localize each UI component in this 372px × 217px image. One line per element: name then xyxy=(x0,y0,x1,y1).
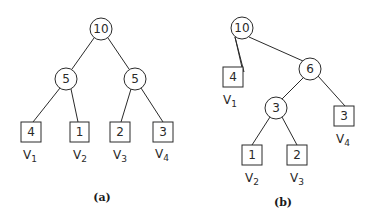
edge xyxy=(249,37,303,61)
root-node: 10 xyxy=(231,17,253,39)
edge xyxy=(33,88,60,122)
leaf-node: 1 V2 xyxy=(70,122,89,164)
leaf-label: V1 xyxy=(223,93,237,109)
edge xyxy=(71,89,78,122)
leaf-label: V3 xyxy=(290,171,304,187)
node-value: 4 xyxy=(27,125,35,139)
node-value: 3 xyxy=(272,101,280,115)
node-value: 1 xyxy=(248,148,256,162)
leaf-label: V3 xyxy=(113,148,127,164)
edge xyxy=(141,88,163,122)
huffman-trees-figure: 10 5 5 4 V1 1 V2 2 V3 3 V4 xyxy=(0,0,372,217)
edge xyxy=(282,117,297,145)
node-value: 6 xyxy=(306,62,314,76)
edge xyxy=(121,89,131,122)
leaf-node: 3 V4 xyxy=(334,106,354,148)
internal-node: 5 xyxy=(124,68,146,90)
edge xyxy=(282,77,304,99)
internal-node: 6 xyxy=(299,58,321,80)
node-value: 4 xyxy=(229,70,237,84)
leaf-node: 3 V4 xyxy=(153,122,173,163)
leaf-label: V1 xyxy=(23,148,37,164)
node-value: 2 xyxy=(116,125,124,139)
node-value: 10 xyxy=(234,21,249,35)
leaf-label: V2 xyxy=(245,171,259,187)
leaf-node: 4 V1 xyxy=(21,122,41,164)
node-value: 5 xyxy=(62,72,70,86)
root-node: 10 xyxy=(90,18,112,40)
caption: (b) xyxy=(274,196,292,209)
leaf-label: V4 xyxy=(336,132,350,148)
node-value: 10 xyxy=(93,22,108,36)
edge xyxy=(108,38,129,69)
tree-b: 10 6 3 4 V1 1 V2 2 V3 3 V4 xyxy=(223,17,354,209)
node-value: 1 xyxy=(76,125,84,139)
node-value: 2 xyxy=(293,148,301,162)
leaf-label: V4 xyxy=(155,147,169,163)
edge xyxy=(252,117,270,145)
leaf-node: 1 V2 xyxy=(242,145,262,187)
caption: (a) xyxy=(93,191,111,204)
leaf-label: V2 xyxy=(73,148,87,164)
leaf-node: 4 V1 xyxy=(223,67,243,109)
edge xyxy=(318,76,345,106)
node-value: 3 xyxy=(159,125,167,139)
internal-node: 5 xyxy=(55,68,77,90)
leaf-node: 2 V3 xyxy=(110,122,130,164)
internal-node: 3 xyxy=(265,97,287,119)
node-value: 5 xyxy=(131,72,139,86)
leaf-node: 2 V3 xyxy=(287,145,307,187)
edge xyxy=(72,38,94,69)
tree-a: 10 5 5 4 V1 1 V2 2 V3 3 V4 xyxy=(21,18,173,204)
node-value: 3 xyxy=(340,109,348,123)
